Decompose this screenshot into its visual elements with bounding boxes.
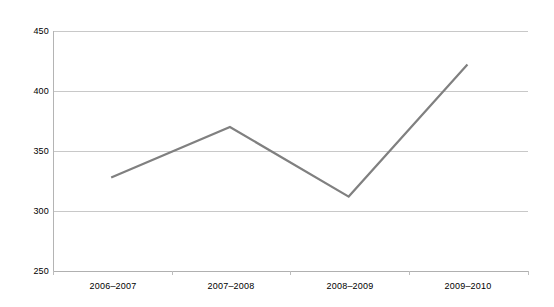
line-chart: 450 400 350 300 250 2006–2007 2007–2008 … [0, 0, 554, 307]
series-line [111, 65, 467, 197]
series-line-layer [0, 0, 554, 307]
